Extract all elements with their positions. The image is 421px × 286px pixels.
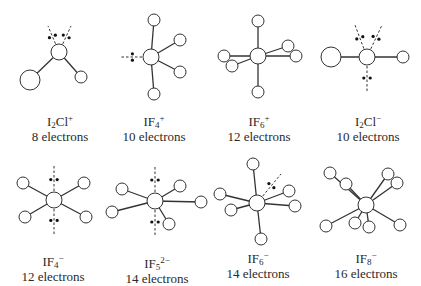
ligand-atom <box>290 50 302 62</box>
ligand-atom <box>252 15 264 27</box>
ligand-atom <box>382 168 394 180</box>
electron-count: 10 electrons <box>318 129 418 144</box>
ligand-atom <box>321 47 341 67</box>
central-iodine-atom <box>46 192 62 208</box>
electron-count: 12 electrons <box>209 129 309 144</box>
molecule-label: IF6−14 electrons <box>208 251 308 281</box>
electron-count: 8 electrons <box>10 129 110 144</box>
molecule-label: IF4−12 electrons <box>3 254 103 284</box>
electron-count: 16 electrons <box>316 266 416 281</box>
ligand-atom <box>148 88 160 100</box>
electron-count: 14 electrons <box>107 271 207 286</box>
ligand-atom <box>289 200 301 212</box>
molecule-IF4-minus <box>17 166 92 234</box>
ligand-atom <box>116 183 128 195</box>
ligand-atom <box>174 66 186 78</box>
ligand-atom <box>324 167 336 179</box>
formula: I2Cl+ <box>10 114 110 129</box>
molecule-label: IF52−14 electrons <box>107 256 207 286</box>
formula: IF4+ <box>104 114 204 129</box>
ligand-atom <box>195 196 207 208</box>
ligand-atom <box>174 180 186 192</box>
central-iodine-atom <box>250 48 266 64</box>
formula: IF52− <box>107 256 207 271</box>
molecule-label: IF6+12 electrons <box>209 114 309 144</box>
ligand-atom <box>394 219 406 231</box>
ligand-atom <box>75 71 87 83</box>
ligand-atom <box>19 211 31 223</box>
molecule-label: IF4+10 electrons <box>104 114 204 144</box>
ligand-atom <box>363 221 375 233</box>
formula: I2Cl− <box>318 114 418 129</box>
ligand-atom <box>252 86 264 98</box>
formula: IF8− <box>316 251 416 266</box>
ligand-atom <box>78 177 90 189</box>
ligand-atom <box>226 60 238 72</box>
electron-count: 10 electrons <box>104 129 204 144</box>
central-iodine-atom <box>249 195 265 211</box>
molecule-IF6-minus <box>214 158 301 245</box>
ligand-atom <box>214 188 226 200</box>
ligand-atom <box>148 14 160 26</box>
ligand-atom <box>320 220 332 232</box>
ligand-atom <box>106 206 118 218</box>
molecule-IF6-plus <box>218 15 302 98</box>
formula: IF4− <box>3 254 103 269</box>
ligand-atom <box>340 178 352 190</box>
ligand-atom <box>255 233 267 245</box>
ligand-atom <box>349 217 361 229</box>
molecule-IF5-2minus <box>106 166 207 236</box>
central-iodine-atom <box>51 44 67 60</box>
ligand-atom <box>218 50 230 62</box>
molecule-I2Cl-minus <box>321 25 409 92</box>
molecule-label: I2Cl+8 electrons <box>10 114 110 144</box>
electron-count: 12 electrons <box>3 269 103 284</box>
molecule-label: IF8−16 electrons <box>316 251 416 281</box>
ligand-atom <box>17 177 29 189</box>
molecule-IF8-minus <box>320 167 406 233</box>
ligand-atom <box>20 70 40 90</box>
formula: IF6− <box>208 251 308 266</box>
molecule-label: I2Cl−10 electrons <box>318 114 418 144</box>
ligand-atom <box>282 40 294 52</box>
electron-count: 14 electrons <box>208 266 308 281</box>
ligand-atom <box>391 177 403 189</box>
ligand-atom <box>80 211 92 223</box>
ligand-atom <box>247 158 259 170</box>
central-iodine-atom <box>147 193 163 209</box>
ligand-atom <box>225 204 237 216</box>
ligand-atom <box>174 34 186 46</box>
central-iodine-atom <box>359 49 375 65</box>
ligand-atom <box>163 218 175 230</box>
formula: IF6+ <box>209 114 309 129</box>
central-iodine-atom <box>143 49 159 65</box>
molecule-I2Cl-plus <box>20 26 87 90</box>
ligand-atom <box>397 51 409 63</box>
molecule-IF4-plus <box>120 14 186 100</box>
central-iodine-atom <box>358 197 374 213</box>
ligand-atom <box>283 185 295 197</box>
